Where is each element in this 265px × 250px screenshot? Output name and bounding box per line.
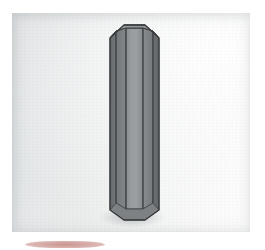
prism-left-edge-face [110,31,116,210]
prism-front-face [126,28,143,209]
rose-accent-band [25,241,105,248]
hexagonal-prism [12,13,250,232]
photo-panel [12,13,250,232]
prism-right-edge-face [153,31,159,210]
prism-left-face [116,28,126,209]
image-canvas [0,0,265,250]
prism-right-face [143,28,153,209]
